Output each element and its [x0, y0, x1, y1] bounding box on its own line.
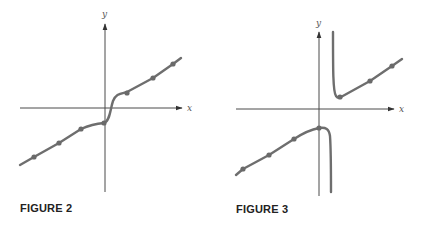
fig2-y-label: y: [101, 9, 108, 19]
fig3-left-branch: [236, 128, 331, 192]
fig2-curve: [20, 58, 181, 165]
fig3-y-label: y: [315, 18, 322, 28]
fig3-x-label: x: [399, 104, 404, 114]
figures-canvas: x y x y: [0, 0, 421, 227]
figure-3-plot: x y: [236, 18, 404, 196]
figure-2-plot: x y: [20, 9, 192, 192]
figure-3-caption: FIGURE 3: [236, 203, 288, 215]
fig2-points: [31, 61, 175, 159]
fig3-points: [240, 63, 394, 171]
fig2-x-label: x: [187, 103, 192, 113]
figure-2-caption: FIGURE 2: [20, 202, 72, 214]
